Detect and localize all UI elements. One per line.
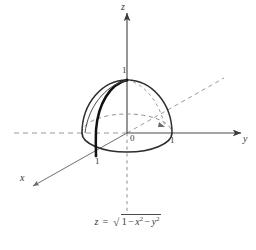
radical-body: 1−x2−y2 (121, 214, 162, 227)
figure-canvas (0, 0, 256, 250)
caption-equals: = (101, 216, 110, 227)
axis-label-z: z (121, 2, 125, 12)
equation-caption: z = √ 1−x2−y2 (0, 214, 256, 228)
radical-sign-icon: √ (113, 216, 119, 228)
dome-apex-point (126, 79, 129, 82)
caption-y-exponent: 2 (156, 215, 159, 222)
axis-label-x: x (20, 173, 24, 183)
origin-label: 0 (130, 134, 135, 143)
axis-x-positive (33, 133, 127, 186)
cut-plane-edge (85, 80, 127, 133)
caption-minus-second: − (143, 216, 152, 227)
caption-radical: √ 1−x2−y2 (112, 214, 161, 228)
tick-label-y-one: 1 (170, 136, 175, 145)
tick-label-z-one: 1 (122, 66, 127, 75)
hemisphere-figure: z y x 1 1 1 0 z = √ 1−x2−y2 (0, 0, 256, 250)
axis-label-y: y (243, 134, 247, 144)
caption-one: 1 (122, 216, 127, 227)
tick-label-x-one: 1 (95, 157, 100, 166)
caption-lhs: z (95, 216, 99, 227)
